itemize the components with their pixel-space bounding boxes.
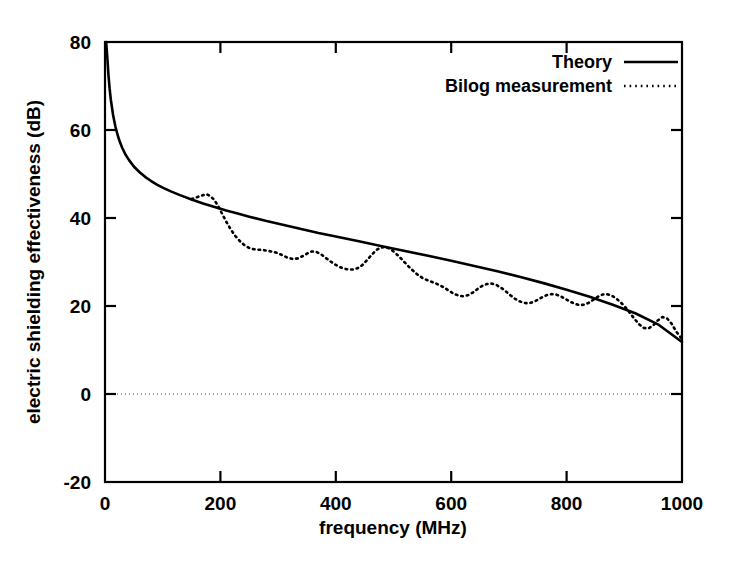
y-tick-label: 0 [80,384,91,405]
y-tick-label: 20 [70,296,91,317]
x-tick-label: 400 [320,493,352,514]
x-tick-label: 800 [551,493,583,514]
x-tick-label: 1000 [661,493,703,514]
shielding-effectiveness-chart: -20020406080 02004006008001000 frequency… [0,0,736,564]
y-axis-tick-labels: -20020406080 [64,32,91,493]
legend: Theory Bilog measurement [445,52,678,96]
y-axis-ticks [105,130,682,394]
series-bilog-measurement [192,194,682,339]
x-tick-label: 600 [435,493,467,514]
legend-label-bilog-measurement: Bilog measurement [445,76,612,96]
plot-frame [105,42,682,482]
x-axis-title: frequency (MHz) [319,517,467,538]
y-tick-label: -20 [64,472,91,493]
x-tick-label: 0 [100,493,111,514]
x-tick-label: 200 [205,493,237,514]
x-axis-tick-labels: 02004006008001000 [100,493,703,514]
y-tick-label: 60 [70,120,91,141]
y-tick-label: 80 [70,32,91,53]
chart-svg: -20020406080 02004006008001000 frequency… [0,0,736,564]
y-tick-label: 40 [70,208,91,229]
legend-label-theory: Theory [552,52,612,72]
y-axis-title: electric shielding effectiveness (dB) [23,100,44,424]
x-axis-ticks [220,42,566,482]
